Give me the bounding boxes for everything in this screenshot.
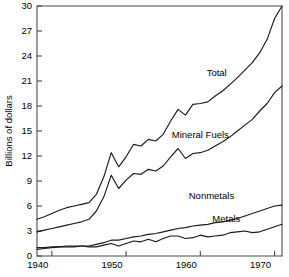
y-tick-label: 21 bbox=[21, 75, 32, 86]
series-line-mineral-fuels bbox=[37, 86, 282, 232]
series-annotations: TotalMineral FuelsNonmetalsMetals bbox=[172, 67, 241, 224]
x-axis-tick-labels: 1940195019601970 bbox=[27, 259, 271, 270]
data-series-group bbox=[37, 6, 282, 249]
series-label-mineral-fuels: Mineral Fuels bbox=[172, 129, 229, 140]
series-line-nonmetals bbox=[37, 205, 282, 248]
y-axis-tick-labels: 036912151821242730 bbox=[21, 0, 32, 261]
series-label-nonmetals: Nonmetals bbox=[189, 190, 235, 201]
y-tick-label: 24 bbox=[21, 50, 32, 61]
y-tick-label: 12 bbox=[21, 150, 32, 161]
chart-figure: Billions of dollars 036912151821242730 1… bbox=[0, 0, 289, 277]
x-tick-label: 1960 bbox=[176, 259, 197, 270]
y-tick-label: 3 bbox=[27, 225, 32, 236]
line-chart: Billions of dollars 036912151821242730 1… bbox=[0, 0, 289, 277]
plot-frame bbox=[37, 6, 282, 256]
y-axis-title: Billions of dollars bbox=[3, 95, 14, 167]
x-tick-label: 1950 bbox=[102, 259, 123, 270]
y-tick-label: 6 bbox=[27, 200, 32, 211]
series-label-total: Total bbox=[207, 67, 227, 78]
y-tick-label: 9 bbox=[27, 175, 32, 186]
x-tick-label: 1940 bbox=[27, 259, 48, 270]
x-axis-ticks bbox=[52, 251, 275, 256]
y-tick-label: 15 bbox=[21, 125, 32, 136]
series-label-metals: Metals bbox=[212, 213, 240, 224]
y-tick-label: 27 bbox=[21, 25, 32, 36]
y-tick-label: 30 bbox=[21, 0, 32, 11]
x-tick-label: 1970 bbox=[250, 259, 271, 270]
series-line-metals bbox=[37, 224, 282, 249]
series-line-total bbox=[37, 6, 282, 219]
y-tick-label: 18 bbox=[21, 100, 32, 111]
